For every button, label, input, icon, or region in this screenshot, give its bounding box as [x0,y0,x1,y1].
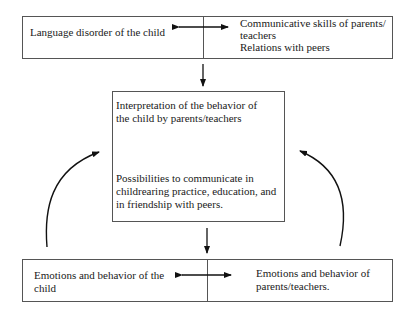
left-feedback-curved-arrow-icon [46,152,99,247]
arrows-layer [0,0,412,318]
right-feedback-curved-arrow-icon [300,151,343,246]
